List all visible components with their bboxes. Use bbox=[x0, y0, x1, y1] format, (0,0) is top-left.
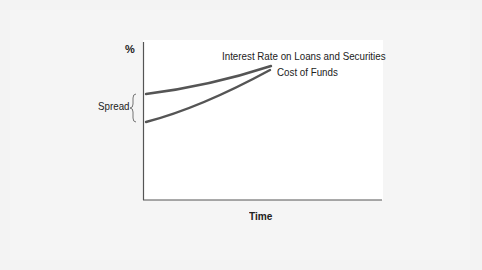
spread-brace-icon bbox=[130, 94, 136, 122]
x-axis-label: Time bbox=[249, 210, 272, 222]
cost-of-funds-line bbox=[146, 70, 270, 122]
line-chart bbox=[0, 0, 482, 270]
y-axis-label: % bbox=[125, 43, 135, 55]
interest-rate-label: Interest Rate on Loans and Securities bbox=[222, 50, 386, 62]
spread-label: Spread bbox=[98, 100, 130, 112]
cost-of-funds-label: Cost of Funds bbox=[277, 66, 338, 78]
